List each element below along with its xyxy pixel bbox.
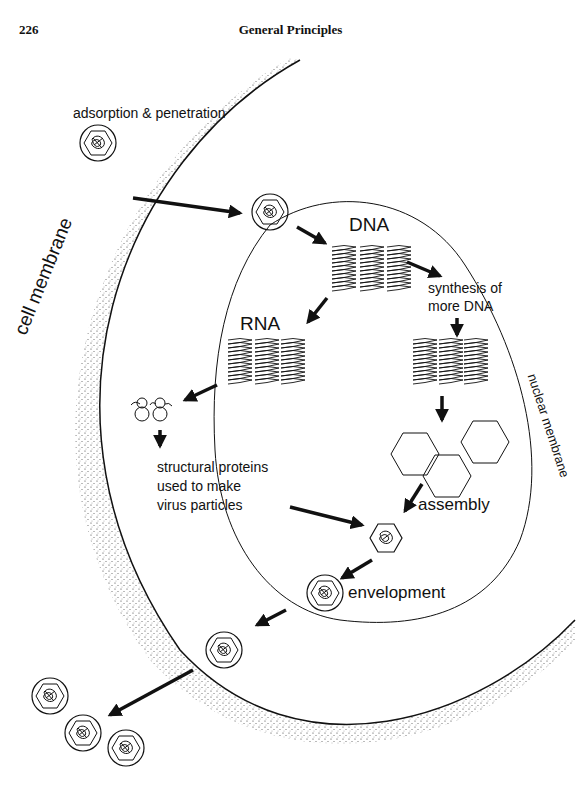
cell-membrane — [75, 58, 575, 744]
label-synthesis-1: synthesis of — [428, 280, 502, 296]
label-adsorption: adsorption & penetration — [73, 105, 226, 121]
protein-icon — [131, 398, 172, 421]
label-assembly: assembly — [418, 495, 490, 515]
label-dna: DNA — [349, 214, 389, 236]
label-proteins-1: structural proteins — [157, 459, 268, 475]
label-proteins-2: used to make — [157, 478, 241, 494]
label-envelopment: envelopment — [348, 583, 445, 603]
label-synthesis-2: more DNA — [428, 298, 493, 314]
label-rna: RNA — [240, 313, 280, 335]
nuclear-membrane — [214, 202, 532, 623]
label-proteins-3: virus particles — [157, 497, 243, 513]
